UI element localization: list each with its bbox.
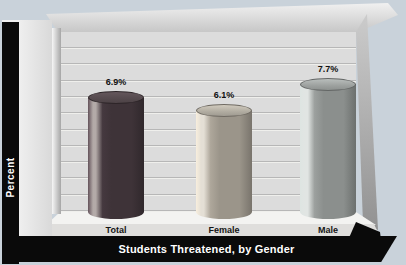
bar-value-label: 6.9% xyxy=(86,77,146,87)
chart-figure: 012345678910 Percent Students Threatened… xyxy=(0,0,406,265)
wall-top-bevel xyxy=(40,0,402,32)
bar-cylinder-total xyxy=(88,98,144,219)
category-label-male: Male xyxy=(293,225,363,235)
wall-left-edge xyxy=(52,28,61,214)
x-axis-banner: Students Threatened, by Gender xyxy=(2,236,397,262)
gridline xyxy=(61,47,356,49)
y-axis-banner: Percent xyxy=(2,20,19,264)
y-axis-tick-area xyxy=(19,20,52,242)
category-label-total: Total xyxy=(81,225,151,235)
bar-cylinder-top xyxy=(196,104,252,117)
bar-cylinder-male xyxy=(300,84,356,219)
bar-cylinder-top xyxy=(88,91,144,104)
category-label-female: Female xyxy=(189,225,259,235)
chart-title: Students Threatened, by Gender xyxy=(105,243,295,255)
bar-value-label: 6.1% xyxy=(194,90,254,100)
bar-cylinder-female xyxy=(196,111,252,219)
bar-cylinder-top xyxy=(300,78,356,91)
bar-value-label: 7.7% xyxy=(298,64,358,74)
y-axis-title: Percent xyxy=(5,157,16,197)
